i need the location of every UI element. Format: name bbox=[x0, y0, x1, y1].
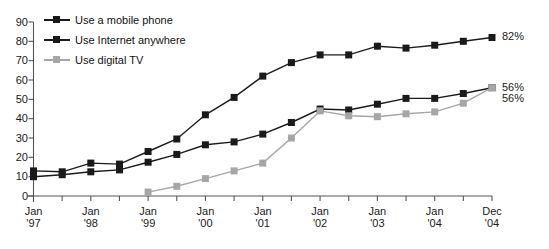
series-end-label: 82% bbox=[502, 31, 524, 42]
y-axis-tick-label: 10 bbox=[2, 171, 28, 182]
x-tick-month: Jan bbox=[126, 205, 170, 217]
legend-item-label: Use a mobile phone bbox=[75, 14, 173, 26]
legend-item-label: Use Internet anywhere bbox=[75, 34, 186, 46]
series-1-marker bbox=[460, 90, 467, 97]
x-axis-tick-label: Jan'01 bbox=[241, 205, 285, 229]
series-1-marker bbox=[231, 138, 238, 145]
legend-marker-icon bbox=[44, 14, 70, 26]
legend-square-icon bbox=[53, 36, 60, 43]
legend-item[interactable]: Use digital TV bbox=[44, 53, 143, 67]
series-0-marker bbox=[431, 42, 438, 49]
x-tick-month: Jan bbox=[298, 205, 342, 217]
y-axis-tick-label: 90 bbox=[2, 17, 28, 28]
series-2-marker bbox=[173, 183, 180, 190]
series-1-marker bbox=[116, 166, 123, 173]
series-2-marker bbox=[259, 160, 266, 167]
x-tick-month: Jan bbox=[183, 205, 227, 217]
series-0-marker bbox=[374, 43, 381, 50]
series-end-label: 56% bbox=[502, 93, 524, 104]
legend-marker-icon bbox=[44, 34, 70, 46]
series-1-marker bbox=[403, 95, 410, 102]
x-tick-year: '97 bbox=[12, 217, 56, 229]
series-2-marker bbox=[345, 112, 352, 119]
legend-item-label: Use digital TV bbox=[75, 54, 143, 66]
series-0-marker bbox=[202, 111, 209, 118]
series-2-marker bbox=[374, 113, 381, 120]
series-2-marker bbox=[489, 84, 496, 91]
series-1-marker bbox=[431, 95, 438, 102]
series-1-marker bbox=[87, 168, 94, 175]
chart-container: 0102030405060708090 Jan'97Jan'98Jan'99Ja… bbox=[0, 0, 549, 249]
x-tick-year: '04 bbox=[470, 217, 514, 229]
x-tick-year: '01 bbox=[241, 217, 285, 229]
series-1-marker bbox=[288, 119, 295, 126]
series-1-marker bbox=[173, 151, 180, 158]
x-axis-tick-label: Jan'00 bbox=[183, 205, 227, 229]
series-1-marker bbox=[202, 141, 209, 148]
y-axis-tick-label: 30 bbox=[2, 133, 28, 144]
x-tick-year: '99 bbox=[126, 217, 170, 229]
x-axis-tick-label: Jan'04 bbox=[413, 205, 457, 229]
series-2-marker bbox=[460, 100, 467, 107]
y-axis-tick-label: 0 bbox=[2, 191, 28, 202]
series-1-marker bbox=[30, 173, 37, 180]
series-1-marker bbox=[259, 131, 266, 138]
series-2-marker bbox=[145, 189, 152, 196]
x-axis-tick-label: Jan'97 bbox=[12, 205, 56, 229]
y-axis-tick-label: 60 bbox=[2, 75, 28, 86]
series-2-marker bbox=[231, 167, 238, 174]
x-tick-month: Jan bbox=[69, 205, 113, 217]
y-axis-tick-label: 70 bbox=[2, 55, 28, 66]
x-tick-month: Dec bbox=[470, 205, 514, 217]
x-tick-month: Jan bbox=[413, 205, 457, 217]
series-0-marker bbox=[317, 51, 324, 58]
series-0-marker bbox=[87, 160, 94, 167]
x-axis-tick-label: Jan'99 bbox=[126, 205, 170, 229]
x-tick-month: Jan bbox=[355, 205, 399, 217]
series-1-marker bbox=[374, 101, 381, 108]
series-0-marker bbox=[288, 59, 295, 66]
series-2-marker bbox=[317, 107, 324, 114]
x-axis-tick-label: Jan'02 bbox=[298, 205, 342, 229]
x-tick-year: '98 bbox=[69, 217, 113, 229]
y-axis-tick-label: 50 bbox=[2, 94, 28, 105]
x-axis-tick-label: Jan'98 bbox=[69, 205, 113, 229]
y-axis-tick-label: 20 bbox=[2, 152, 28, 163]
legend-item[interactable]: Use a mobile phone bbox=[44, 13, 173, 27]
series-0-marker bbox=[345, 51, 352, 58]
legend-square-icon bbox=[53, 56, 60, 63]
x-tick-month: Jan bbox=[12, 205, 56, 217]
series-2-marker bbox=[202, 175, 209, 182]
series-1-marker bbox=[59, 171, 66, 178]
series-line-2 bbox=[148, 88, 492, 192]
legend-marker-icon bbox=[44, 54, 70, 66]
series-2-marker bbox=[431, 108, 438, 115]
series-0-marker bbox=[259, 73, 266, 80]
series-0-marker bbox=[173, 136, 180, 143]
x-axis-tick-label: Jan'03 bbox=[355, 205, 399, 229]
x-tick-year: '00 bbox=[183, 217, 227, 229]
series-0-marker bbox=[403, 45, 410, 52]
y-axis-tick-label: 40 bbox=[2, 113, 28, 124]
x-tick-month: Jan bbox=[241, 205, 285, 217]
x-tick-year: '02 bbox=[298, 217, 342, 229]
series-2-marker bbox=[403, 110, 410, 117]
series-0-marker bbox=[460, 38, 467, 45]
x-tick-year: '03 bbox=[355, 217, 399, 229]
x-tick-year: '04 bbox=[413, 217, 457, 229]
x-axis-tick-label: Dec'04 bbox=[470, 205, 514, 229]
y-axis-tick-label: 80 bbox=[2, 36, 28, 47]
series-0-marker bbox=[489, 34, 496, 41]
series-0-marker bbox=[145, 148, 152, 155]
legend-item[interactable]: Use Internet anywhere bbox=[44, 33, 186, 47]
legend-square-icon bbox=[53, 16, 60, 23]
series-1-marker bbox=[145, 159, 152, 166]
series-2-marker bbox=[288, 135, 295, 142]
series-0-marker bbox=[231, 94, 238, 101]
